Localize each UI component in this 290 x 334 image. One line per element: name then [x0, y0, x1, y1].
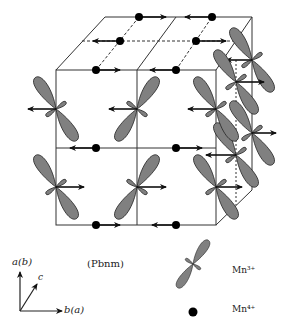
mn3-legend-symbol: [176, 240, 210, 288]
crystal-structure-diagram: [0, 0, 290, 334]
axis-label-vertical: a(b): [12, 256, 32, 267]
mn4-legend-symbol: [189, 308, 198, 317]
mn3-legend-label: Mn³⁺: [232, 265, 255, 275]
axis-label-depth: c: [38, 272, 43, 282]
mn3-sites: [28, 28, 276, 220]
mn4-sites: [70, 13, 226, 229]
space-group-label: (Pbnm): [87, 258, 124, 269]
mn4-legend-label: Mn⁴⁺: [232, 304, 255, 314]
axis-label-horizontal: b(a): [64, 304, 84, 315]
